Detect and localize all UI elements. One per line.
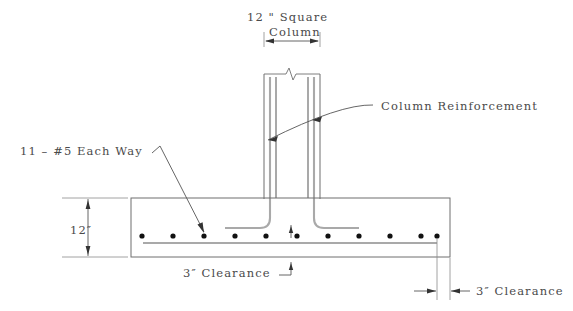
rebar-dot: [356, 233, 361, 238]
arrow-left-icon: [451, 289, 460, 294]
arrow-left-icon: [265, 38, 274, 43]
side-clearance-label: 3″ Clearance: [476, 284, 564, 298]
column-word-label: Column: [269, 25, 321, 39]
column-dowel-right: [314, 77, 359, 228]
side-clearance-dimension: [414, 238, 470, 300]
bottom-clearance-label: 3″ Clearance: [183, 266, 271, 280]
arrow-right-icon: [427, 289, 436, 294]
rebar-dot: [170, 233, 175, 238]
footing-outline: [131, 198, 450, 257]
rebar-dot: [294, 233, 299, 238]
rebar-dot: [232, 233, 237, 238]
arrow-right-icon: [310, 38, 319, 43]
column-reinforcement-label: Column Reinforcement: [381, 99, 538, 113]
rebar-dot: [325, 233, 330, 238]
column-dowel-left: [225, 77, 270, 228]
arrow-down-icon: [86, 246, 91, 255]
arrow-up-icon: [289, 263, 293, 270]
drawing-canvas: 12 " Square Column: [0, 0, 573, 311]
footing-detail-drawing: 12 " Square Column: [0, 0, 573, 311]
column-outline: [264, 68, 320, 199]
rebar-dot: [201, 233, 206, 238]
bottom-clearance-dimension: [279, 225, 293, 275]
rebar-dot: [434, 233, 439, 238]
rebar-dot: [139, 233, 144, 238]
footing-bars-leader: [152, 146, 204, 233]
rebar-dot: [387, 233, 392, 238]
leader-line-footing-bars: [152, 146, 204, 232]
column-size-label: 12 " Square: [247, 10, 328, 24]
footing-bars-label: 11 – #5 Each Way: [20, 144, 143, 158]
footing-depth-label: 12″: [70, 223, 92, 237]
leader-arrow-footing-bars: [198, 222, 205, 233]
arrow-up-icon: [289, 226, 293, 233]
column-reinforcement-bars: [225, 77, 359, 228]
rebar-dot: [263, 233, 268, 238]
footing-transverse-bars: [139, 233, 439, 238]
rebar-dot: [418, 233, 423, 238]
arrow-up-icon: [86, 200, 91, 209]
break-line-icon: [264, 68, 320, 80]
